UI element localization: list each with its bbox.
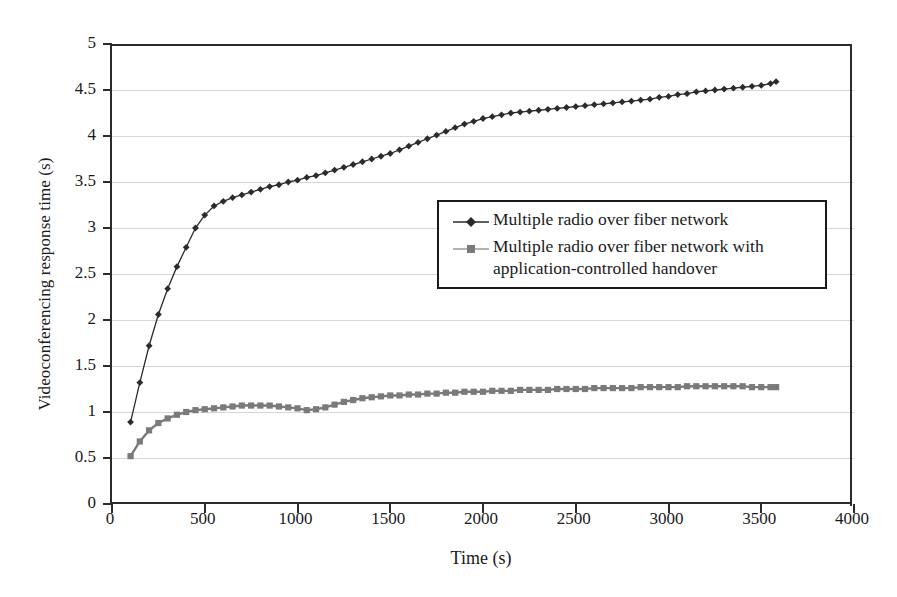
data-point-marker [767, 384, 773, 390]
data-point-marker [424, 391, 430, 397]
data-point-marker [526, 108, 533, 115]
data-point-marker [638, 384, 644, 390]
data-point-marker [489, 388, 495, 394]
data-point-marker [183, 244, 190, 251]
data-point-marker [174, 412, 180, 418]
data-point-marker [480, 115, 487, 122]
y-axis-tick [103, 227, 112, 229]
data-point-marker [192, 407, 198, 413]
data-point-marker [313, 172, 320, 179]
series-line [131, 386, 777, 456]
data-point-marker [127, 453, 133, 459]
x-axis-title: Time (s) [110, 548, 852, 569]
chart-figure: Videoconferencing response time (s) 00.5… [0, 0, 897, 597]
y-axis-tick-label: 2.5 [50, 264, 96, 281]
data-point-marker [563, 104, 570, 111]
data-point-marker [396, 146, 403, 153]
data-point-marker [554, 386, 560, 392]
data-point-marker [396, 392, 402, 398]
data-point-marker [415, 391, 421, 397]
data-point-marker [452, 124, 459, 131]
data-point-marker [257, 402, 263, 408]
data-point-marker [322, 169, 329, 176]
y-axis-tick-label: 3 [50, 218, 96, 235]
data-point-marker [656, 384, 662, 390]
data-point-marker [656, 94, 663, 101]
data-series [127, 383, 779, 459]
data-point-marker [350, 397, 356, 403]
y-axis-tick [103, 181, 112, 183]
data-point-marker [405, 143, 412, 150]
y-axis-tick [103, 135, 112, 137]
plot-top-border [110, 44, 852, 46]
y-axis-tick [103, 89, 112, 91]
data-point-marker [229, 403, 235, 409]
data-point-marker [350, 161, 357, 168]
data-point-marker [433, 132, 440, 139]
data-point-marker [712, 383, 718, 389]
y-axis-tick-label: 4.5 [50, 80, 96, 97]
data-point-marker [303, 174, 310, 181]
data-point-marker [387, 392, 393, 398]
data-point-marker [183, 409, 189, 415]
data-point-marker [480, 389, 486, 395]
y-axis-tick-label: 0.5 [50, 448, 96, 465]
data-point-marker [452, 390, 458, 396]
data-point-marker [693, 88, 700, 95]
data-point-marker [155, 311, 162, 318]
data-point-marker [507, 110, 514, 117]
legend-item: Multiple radio over fiber network [449, 208, 817, 234]
data-point-marker [535, 107, 542, 114]
legend-item: Multiple radio over fiber network with a… [449, 235, 817, 279]
data-point-marker [239, 402, 245, 408]
data-point-marker [591, 101, 598, 108]
data-point-marker [721, 86, 728, 93]
data-point-marker [573, 386, 579, 392]
data-point-marker [684, 383, 690, 389]
data-point-marker [773, 78, 780, 85]
data-point-marker [313, 406, 319, 412]
x-axis-tick-label: 500 [163, 510, 243, 527]
data-point-marker [359, 158, 366, 165]
data-point-marker [740, 383, 746, 389]
data-point-marker [424, 135, 431, 142]
data-point-marker [572, 103, 579, 110]
x-axis-tick-label: 1000 [256, 510, 336, 527]
y-axis-tick [103, 273, 112, 275]
data-point-marker [470, 118, 477, 125]
data-point-marker [749, 384, 755, 390]
data-point-marker [647, 384, 653, 390]
data-point-marker [368, 156, 375, 163]
data-point-marker [773, 384, 779, 390]
data-point-marker [415, 139, 422, 146]
data-point-marker [609, 99, 616, 106]
data-point-marker [387, 150, 394, 157]
data-point-marker [285, 179, 292, 186]
data-point-marker [174, 263, 181, 270]
data-point-marker [127, 419, 134, 426]
data-point-marker [582, 386, 588, 392]
data-point-marker [721, 383, 727, 389]
data-point-marker [758, 384, 764, 390]
data-point-marker [341, 399, 347, 405]
data-point-marker [600, 100, 607, 107]
data-point-marker [767, 80, 774, 87]
data-point-marker [165, 415, 171, 421]
data-point-marker [536, 387, 542, 393]
y-axis-tick-label: 0 [50, 494, 96, 511]
data-point-marker [276, 181, 283, 188]
data-point-marker [749, 83, 756, 90]
data-point-marker [665, 93, 672, 100]
y-axis-tick-label: 1.5 [50, 356, 96, 373]
data-point-marker [248, 189, 255, 196]
data-point-marker [600, 385, 606, 391]
data-point-marker [155, 420, 161, 426]
data-point-marker [461, 121, 468, 128]
data-point-marker [369, 394, 375, 400]
data-point-marker [711, 87, 718, 94]
x-axis-tick-label: 2500 [534, 510, 614, 527]
data-point-marker [628, 385, 634, 391]
data-point-marker [146, 342, 153, 349]
legend-label: Multiple radio over fiber network [493, 208, 728, 230]
legend-marker-square-icon [449, 237, 493, 261]
